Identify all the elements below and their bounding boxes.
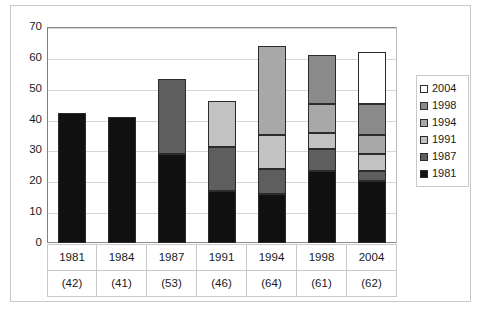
bar-segment-1984-1981 bbox=[108, 117, 136, 244]
legend-label-2004: 2004 bbox=[432, 83, 456, 94]
legend-label-1991: 1991 bbox=[432, 134, 456, 145]
x-axis-count-1994: (64) bbox=[247, 270, 297, 296]
legend-item-1981[interactable]: 1981 bbox=[420, 165, 465, 182]
x-axis-year-1994: 1994 bbox=[247, 244, 297, 270]
bar-column-1987 bbox=[147, 27, 197, 243]
legend-swatch-2004 bbox=[420, 85, 428, 93]
legend-swatch-1998 bbox=[420, 102, 428, 110]
y-axis-tick-10: 10 bbox=[4, 206, 42, 218]
stacked-bar-1998 bbox=[308, 27, 336, 243]
x-axis-count-2004: (62) bbox=[347, 270, 397, 296]
bar-column-1981 bbox=[47, 27, 97, 243]
x-axis-year-1984: 1984 bbox=[97, 244, 147, 270]
bar-segment-1994-1991 bbox=[258, 135, 286, 169]
bar-segment-1987-1981 bbox=[158, 154, 186, 243]
x-axis-count-1981: (42) bbox=[47, 270, 97, 296]
legend-label-1987: 1987 bbox=[432, 151, 456, 162]
x-axis-count-row: (42)(41)(53)(46)(64)(61)(62) bbox=[47, 270, 397, 296]
x-axis-year-1998: 1998 bbox=[297, 244, 347, 270]
bar-segment-2004-2004 bbox=[358, 52, 386, 104]
bar-column-1984 bbox=[97, 27, 147, 243]
legend-label-1994: 1994 bbox=[432, 117, 456, 128]
legend-item-1991[interactable]: 1991 bbox=[420, 131, 465, 148]
legend-label-1998: 1998 bbox=[432, 100, 456, 111]
bar-segment-1998-1994 bbox=[308, 104, 336, 133]
bar-column-1998 bbox=[297, 27, 347, 243]
bars-group bbox=[47, 27, 397, 243]
bar-column-2004 bbox=[347, 27, 397, 243]
x-axis-year-2004: 2004 bbox=[347, 244, 397, 270]
legend-item-2004[interactable]: 2004 bbox=[420, 80, 465, 97]
x-axis-year-1987: 1987 bbox=[147, 244, 197, 270]
legend-swatch-1991 bbox=[420, 136, 428, 144]
bar-segment-1991-1987 bbox=[208, 147, 236, 190]
bar-segment-1994-1987 bbox=[258, 169, 286, 194]
legend-item-1987[interactable]: 1987 bbox=[420, 148, 465, 165]
bar-segment-1981-1981 bbox=[58, 113, 86, 243]
stacked-bar-1991 bbox=[208, 27, 236, 243]
bar-segment-1994-1994 bbox=[258, 46, 286, 135]
x-axis-table: 1981198419871991199419982004 (42)(41)(53… bbox=[47, 244, 397, 297]
y-axis-tick-20: 20 bbox=[4, 176, 42, 188]
bar-segment-1987-1987 bbox=[158, 79, 186, 153]
legend-item-1994[interactable]: 1994 bbox=[420, 114, 465, 131]
bar-segment-2004-1998 bbox=[358, 104, 386, 135]
chart-legend: 200419981994199119871981 bbox=[416, 75, 469, 187]
bar-segment-1998-1998 bbox=[308, 55, 336, 104]
stacked-bar-1984 bbox=[108, 27, 136, 243]
y-axis-tick-0: 0 bbox=[4, 237, 42, 249]
x-axis-count-1998: (61) bbox=[297, 270, 347, 296]
bar-column-1991 bbox=[197, 27, 247, 243]
stacked-bar-2004 bbox=[358, 27, 386, 243]
legend-item-1998[interactable]: 1998 bbox=[420, 97, 465, 114]
y-axis-tick-labels: 010203040506070 bbox=[0, 27, 42, 243]
bar-segment-2004-1991 bbox=[358, 154, 386, 171]
x-axis-count-1987: (53) bbox=[147, 270, 197, 296]
bar-segment-1991-1981 bbox=[208, 191, 236, 243]
legend-swatch-1987 bbox=[420, 153, 428, 161]
bar-segment-1991-1991 bbox=[208, 101, 236, 147]
stacked-bar-1994 bbox=[258, 27, 286, 243]
y-axis-tick-70: 70 bbox=[4, 21, 42, 33]
legend-swatch-1994 bbox=[420, 119, 428, 127]
x-axis-year-1981: 1981 bbox=[47, 244, 97, 270]
legend-swatch-1981 bbox=[420, 170, 428, 178]
x-axis-count-1991: (46) bbox=[197, 270, 247, 296]
stacked-bar-1981 bbox=[58, 27, 86, 243]
y-axis-tick-60: 60 bbox=[4, 52, 42, 64]
y-axis-tick-30: 30 bbox=[4, 145, 42, 157]
x-axis-count-1984: (41) bbox=[97, 270, 147, 296]
bar-segment-1998-1987 bbox=[308, 149, 336, 171]
bar-segment-1998-1981 bbox=[308, 171, 336, 244]
bar-segment-1994-1981 bbox=[258, 194, 286, 243]
bar-segment-2004-1987 bbox=[358, 171, 386, 182]
bar-segment-2004-1981 bbox=[358, 181, 386, 243]
plot-area-wrapper bbox=[47, 27, 397, 243]
y-axis-tick-40: 40 bbox=[4, 114, 42, 126]
legend-label-1981: 1981 bbox=[432, 168, 456, 179]
chart-figure: 010203040506070 198119841987199119941998… bbox=[0, 0, 482, 313]
bar-segment-1998-1991 bbox=[308, 133, 336, 148]
x-axis-year-row: 1981198419871991199419982004 bbox=[47, 244, 397, 270]
bar-column-1994 bbox=[247, 27, 297, 243]
x-axis-year-1991: 1991 bbox=[197, 244, 247, 270]
bar-segment-2004-1994 bbox=[358, 135, 386, 154]
stacked-bar-1987 bbox=[158, 27, 186, 243]
y-axis-tick-50: 50 bbox=[4, 83, 42, 95]
